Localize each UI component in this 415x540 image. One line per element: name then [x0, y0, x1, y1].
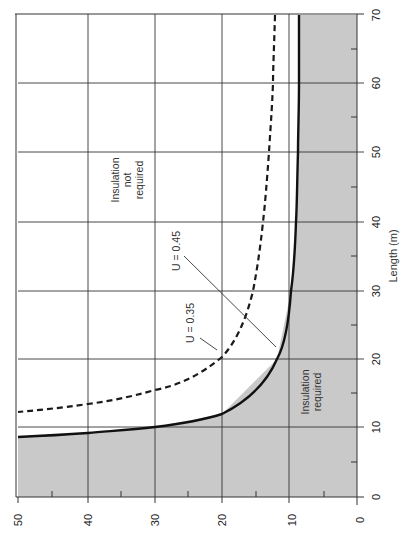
x-tick-60: 60: [370, 77, 382, 89]
y-tick-30: 30: [149, 514, 161, 526]
x-tick-40: 40: [370, 216, 382, 228]
length-tick-labels: 0 10 20 30 40 50 60 70: [370, 9, 382, 500]
y-tick-20: 20: [216, 514, 228, 526]
required-label: Insulation required: [299, 369, 323, 414]
x-tick-50: 50: [370, 146, 382, 158]
svg-text:required: required: [133, 161, 145, 200]
x-tick-10: 10: [370, 421, 382, 433]
insulation-chart: 0 10 20 30 40 50 60 70 Length (m) 50 40 …: [0, 0, 415, 540]
u045-leader-line: [184, 256, 276, 347]
u035-label: U = 0.35: [184, 303, 196, 343]
x-tick-0: 0: [370, 494, 382, 500]
x-axis-title: Length (m): [387, 229, 399, 282]
y-tick-50: 50: [12, 514, 24, 526]
x-tick-20: 20: [370, 353, 382, 365]
u035-dashed-curve: [18, 15, 275, 412]
x-tick-70: 70: [370, 9, 382, 21]
insulation-required-region: [18, 15, 357, 497]
u035-leader-line: [200, 338, 217, 350]
y-tick-0: 0: [354, 517, 366, 523]
svg-text:Insulation: Insulation: [299, 369, 311, 414]
svg-text:Insulation: Insulation: [109, 157, 121, 202]
value-major-ticks: [18, 497, 289, 503]
y-tick-10: 10: [286, 514, 298, 526]
svg-text:not: not: [121, 173, 133, 188]
value-tick-labels: 50 40 30 20 10 0: [12, 514, 366, 526]
u045-solid-curve: [18, 15, 299, 437]
y-tick-40: 40: [82, 514, 94, 526]
u045-label: U = 0.45: [170, 231, 182, 271]
x-tick-30: 30: [370, 285, 382, 297]
not-required-label: Insulation not required: [109, 157, 145, 202]
svg-text:required: required: [311, 373, 323, 412]
